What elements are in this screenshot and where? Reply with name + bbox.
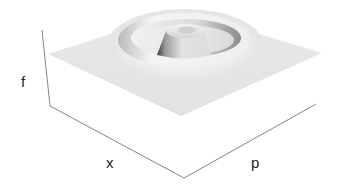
z-axis-line bbox=[42, 30, 50, 106]
central-peak-hole bbox=[178, 27, 196, 34]
p-axis-label: p bbox=[251, 154, 259, 171]
surface-plot: f x p bbox=[0, 0, 338, 187]
p-axis-line bbox=[184, 104, 316, 178]
z-axis-label: f bbox=[21, 73, 26, 90]
x-axis-label: x bbox=[106, 154, 114, 171]
x-axis-line bbox=[50, 106, 184, 178]
